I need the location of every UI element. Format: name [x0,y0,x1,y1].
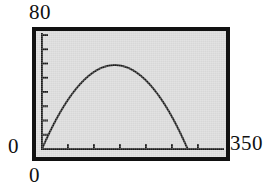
plot-axes [41,33,224,149]
x-axis-max-label: 350 [230,133,263,154]
plot-area [36,31,226,157]
calculator-screen-frame [32,27,230,161]
plot-svg [36,31,226,157]
y-axis-max-label: 80 [29,2,51,23]
x-axis-min-label: 0 [29,165,40,186]
graphing-calculator-screenshot: 80 0 0 350 [0,0,272,191]
function-trace [42,65,188,149]
y-axis-min-label: 0 [8,136,19,157]
